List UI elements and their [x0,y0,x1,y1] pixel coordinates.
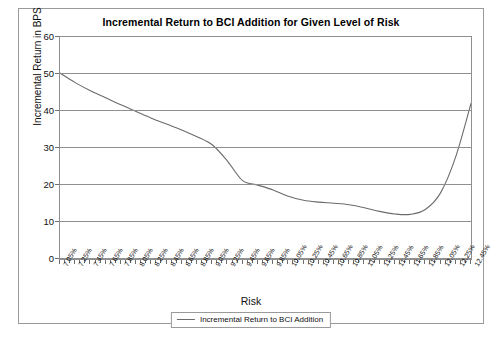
legend-label: Incremental Return to BCI Addition [200,315,323,324]
x-axis-title: Risk [19,295,483,307]
y-tick-label: 30 [43,142,54,153]
gridline [60,221,471,222]
gridline [60,110,471,111]
gridline [60,147,471,148]
plot-area [59,36,472,260]
y-tick-label: 10 [43,216,54,227]
legend-swatch [177,319,195,320]
gridline [60,73,471,74]
chart-container: Incremental Return to BCI Addition for G… [18,8,484,324]
chart-title: Incremental Return to BCI Addition for G… [19,16,483,28]
y-tick-label: 50 [43,68,54,79]
series-path [60,73,471,215]
y-tick-label: 60 [43,31,54,42]
y-tick-label: 20 [43,179,54,190]
y-tick-label: 40 [43,105,54,116]
plot-top-rule [60,36,471,37]
y-axis-ticks: 0102030405060 [19,9,59,241]
chart-legend: Incremental Return to BCI Addition [171,312,331,328]
gridline [60,184,471,185]
